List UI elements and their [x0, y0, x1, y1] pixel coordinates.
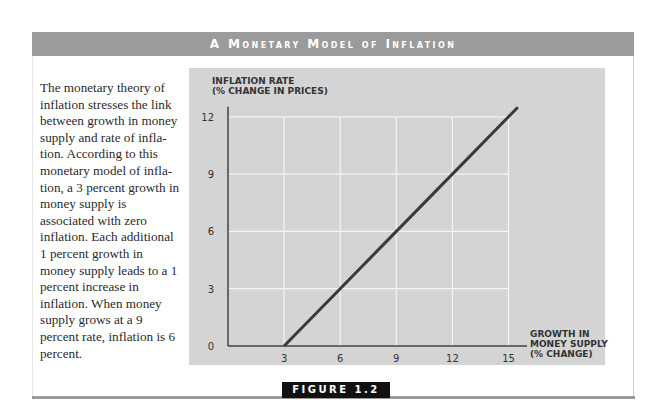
x-tick-label: 9: [393, 353, 399, 364]
x-axis-label: GROWTH IN: [530, 329, 590, 339]
x-tick-label: 12: [446, 353, 459, 364]
x-tick-label: 15: [502, 353, 515, 364]
inflation-line: [284, 107, 518, 346]
x-tick-label: 6: [337, 353, 343, 364]
x-axis-label: (% CHANGE): [530, 349, 593, 359]
y-tick-label: 3: [208, 284, 214, 295]
y-tick-label: 0: [208, 341, 214, 352]
tick-labels: 0369123691215: [201, 112, 515, 364]
y-tick-label: 9: [208, 169, 214, 180]
y-axis-label: (% CHANGE IN PRICES): [212, 86, 328, 96]
x-axis-label: MONEY SUPPLY: [530, 339, 608, 349]
line-chart: 0369123691215 INFLATION RATE(% CHANGE IN…: [0, 0, 666, 418]
x-tick-label: 3: [281, 353, 287, 364]
y-tick-label: 12: [201, 112, 214, 123]
figure-number-tag: FIGURE 1.2: [282, 382, 390, 398]
y-axis-label: INFLATION RATE: [212, 76, 294, 86]
data-series: [284, 107, 518, 346]
y-tick-label: 6: [208, 226, 214, 237]
gridlines: [228, 117, 509, 346]
